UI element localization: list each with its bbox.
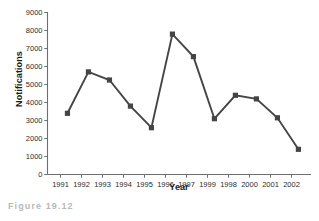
y-tick-label: 9000 <box>9 8 43 17</box>
y-tick-label: 1000 <box>9 152 43 161</box>
data-point-marker <box>296 147 301 152</box>
y-tick-label: 0 <box>9 170 43 179</box>
figure-19-12: 0100020003000400050006000700080009000 19… <box>0 0 319 221</box>
x-axis-title: Year <box>45 182 313 192</box>
data-point-marker <box>191 54 196 59</box>
data-point-marker <box>65 111 70 116</box>
data-point-marker <box>128 104 133 109</box>
figure-caption: Figure 19.12 <box>8 201 74 211</box>
data-point-marker <box>275 115 280 120</box>
y-tick-label: 2000 <box>9 134 43 143</box>
chart-plot-svg <box>0 0 319 196</box>
data-point-marker <box>149 125 154 130</box>
line-chart: 0100020003000400050006000700080009000 19… <box>0 0 319 196</box>
data-point-marker <box>212 116 217 121</box>
data-point-marker <box>107 77 112 82</box>
data-point-marker <box>86 69 91 74</box>
data-point-marker <box>254 96 259 101</box>
data-point-marker <box>170 32 175 37</box>
series-line <box>67 34 298 149</box>
y-axis-title: Notifications <box>14 29 24 129</box>
data-point-marker <box>233 93 238 98</box>
